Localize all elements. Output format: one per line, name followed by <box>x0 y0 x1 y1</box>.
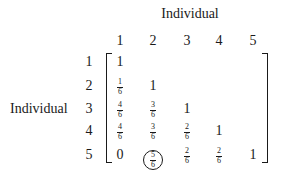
matrix-cell-r5-c4: 26 <box>208 147 230 165</box>
column-header-2: 2 <box>146 33 160 49</box>
matrix-cell-r4-c4: 1 <box>208 123 230 139</box>
row-header-2: 2 <box>82 78 96 94</box>
numerator: 3 <box>151 101 155 109</box>
row-header-5: 5 <box>82 147 96 163</box>
numerator: 2 <box>217 147 221 155</box>
row-header-3: 3 <box>82 101 96 117</box>
numerator: 5 <box>151 151 155 159</box>
numerator: 2 <box>185 147 189 155</box>
cell-value: 1 <box>117 54 124 69</box>
denominator: 6 <box>118 88 122 96</box>
cell-value: 0 <box>117 147 124 162</box>
numerator: 1 <box>118 78 122 86</box>
fraction: 56 <box>150 151 156 169</box>
matrix-cell-r3-c3: 1 <box>176 101 198 117</box>
column-header-1: 1 <box>113 33 127 49</box>
column-header-4: 4 <box>212 33 226 49</box>
row-axis-title: Individual <box>10 101 68 117</box>
fraction: 16 <box>117 78 123 96</box>
matrix-cell-r2-c2: 1 <box>142 78 164 94</box>
denominator: 6 <box>151 161 155 169</box>
row-header-1: 1 <box>82 54 96 70</box>
matrix-cell-r4-c2: 36 <box>142 123 164 141</box>
cell-value: 1 <box>216 123 223 138</box>
matrix-cell-r4-c1: 46 <box>109 123 131 141</box>
numerator: 2 <box>185 123 189 131</box>
numerator: 4 <box>118 101 122 109</box>
numerator: 3 <box>151 123 155 131</box>
column-header-3: 3 <box>180 33 194 49</box>
matrix-cell-r5-c5: 1 <box>242 147 264 163</box>
denominator: 6 <box>151 133 155 141</box>
matrix-cell-r5-c1: 0 <box>109 147 131 163</box>
fraction: 26 <box>184 147 190 165</box>
fraction: 36 <box>150 101 156 119</box>
cell-value: 1 <box>184 101 191 116</box>
denominator: 6 <box>151 111 155 119</box>
column-header-5: 5 <box>246 33 260 49</box>
fraction: 46 <box>117 123 123 141</box>
matrix-cell-r3-c2: 36 <box>142 101 164 119</box>
cell-value: 1 <box>150 78 157 93</box>
fraction: 46 <box>117 101 123 119</box>
fraction: 26 <box>216 147 222 165</box>
fraction: 36 <box>150 123 156 141</box>
fraction: 26 <box>184 123 190 141</box>
denominator: 6 <box>118 111 122 119</box>
denominator: 6 <box>118 133 122 141</box>
matrix-cell-r3-c1: 46 <box>109 101 131 119</box>
denominator: 6 <box>185 157 189 165</box>
highlight-circle: 56 <box>143 150 163 170</box>
matrix-cell-r4-c3: 26 <box>176 123 198 141</box>
matrix-cell-r5-c2-highlighted: 56 <box>142 145 164 170</box>
matrix-cell-r5-c3: 26 <box>176 147 198 165</box>
matrix-cell-r2-c1: 16 <box>109 78 131 96</box>
cell-value: 1 <box>250 147 257 162</box>
column-axis-title: Individual <box>150 6 230 22</box>
denominator: 6 <box>217 157 221 165</box>
denominator: 6 <box>185 133 189 141</box>
matrix-cell-r1-c1: 1 <box>109 54 131 70</box>
row-header-4: 4 <box>82 123 96 139</box>
numerator: 4 <box>118 123 122 131</box>
